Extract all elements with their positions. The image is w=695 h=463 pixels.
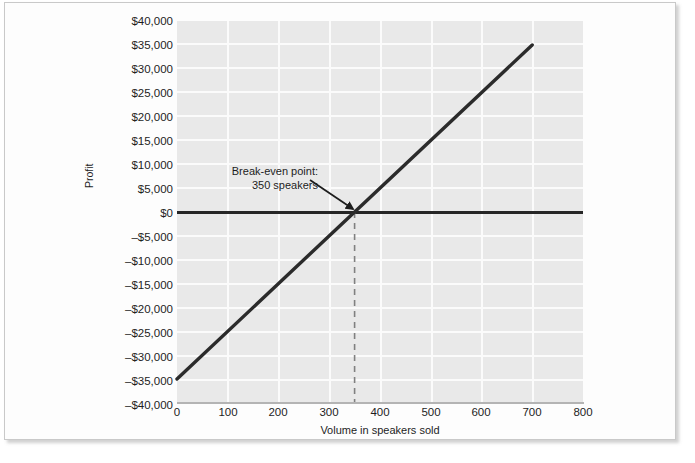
plot-area [177,21,583,403]
annotation-arrow-icon [305,177,367,217]
annotation-line-1: Break-even point: [185,165,318,179]
y-tick-labels: $40,000 $35,000 $30,000 $25,000 $20,000 … [89,3,173,443]
y-tick-label: $5,000 [95,184,173,196]
x-tick-label: 800 [553,407,613,419]
y-tick-label: –$30,000 [95,352,173,364]
x-axis-line [177,402,584,404]
y-tick-label: $10,000 [95,160,173,172]
y-tick-label: –$15,000 [95,280,173,292]
y-tick-label: $35,000 [95,40,173,52]
y-tick-label: $40,000 [95,16,173,28]
y-axis-title: Profit [83,163,95,188]
y-tick-label: $30,000 [95,64,173,76]
y-tick-label: $0 [95,208,173,220]
y-tick-label: $25,000 [95,88,173,100]
y-tick-label: –$10,000 [95,256,173,268]
x-axis-title: Volume in speakers sold [177,424,583,436]
figure-panel: $40,000 $35,000 $30,000 $25,000 $20,000 … [4,2,676,440]
profit-line-svg [177,21,583,403]
y-tick-label: –$5,000 [95,232,173,244]
y-tick-label: –$25,000 [95,328,173,340]
annotation-line-2: 350 speakers [185,179,318,193]
y-tick-label: –$20,000 [95,304,173,316]
y-tick-label: –$35,000 [95,376,173,388]
y-tick-label: $15,000 [95,136,173,148]
break-even-annotation-text: Break-even point: 350 speakers [185,165,318,192]
y-tick-label: $20,000 [95,112,173,124]
